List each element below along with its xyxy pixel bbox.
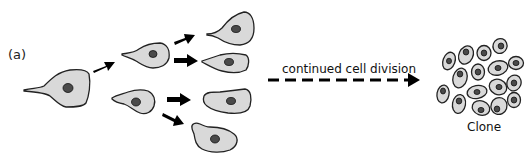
original-cell (24, 70, 90, 107)
arrow-icon (174, 54, 198, 67)
panel-label: (a) (8, 47, 26, 62)
clone-cell (456, 43, 477, 66)
arrow-icon (174, 34, 195, 45)
clone-cell (487, 76, 510, 97)
clone-cell (505, 73, 524, 93)
clone-cluster (436, 37, 524, 118)
granddaughter-cell-2 (202, 54, 249, 73)
clone-cell (477, 46, 491, 61)
clone-cell (472, 64, 485, 80)
granddaughter-cell-3 (203, 89, 250, 113)
daughter-cell-upper (122, 43, 169, 68)
granddaughter-cell-1 (207, 12, 254, 45)
granddaughter-cell-4 (192, 123, 237, 152)
continued-cell-division-label: continued cell division (282, 62, 416, 76)
clone-cell (489, 95, 510, 116)
clone-cell (491, 37, 509, 56)
daughter-cell-lower (112, 90, 155, 114)
clone-cell (487, 59, 510, 78)
arrow-icon (93, 62, 115, 73)
clone-cell (440, 50, 457, 71)
clone-label: Clone (467, 120, 501, 134)
diagram-graphics (0, 0, 530, 163)
clone-cell (509, 57, 524, 70)
arrow-icon (162, 113, 184, 126)
arrow-icon (167, 93, 191, 106)
clone-cell (508, 93, 521, 108)
cell-division-diagram: (a) continued cell division Clone (0, 0, 530, 163)
clone-cell (436, 84, 451, 104)
clone-cell (470, 98, 492, 117)
clone-cell (466, 84, 488, 100)
clone-cell (451, 67, 470, 90)
clone-cell (451, 94, 467, 115)
